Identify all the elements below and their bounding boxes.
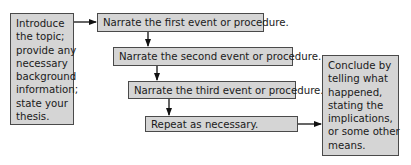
connector-arrows [0,0,411,165]
